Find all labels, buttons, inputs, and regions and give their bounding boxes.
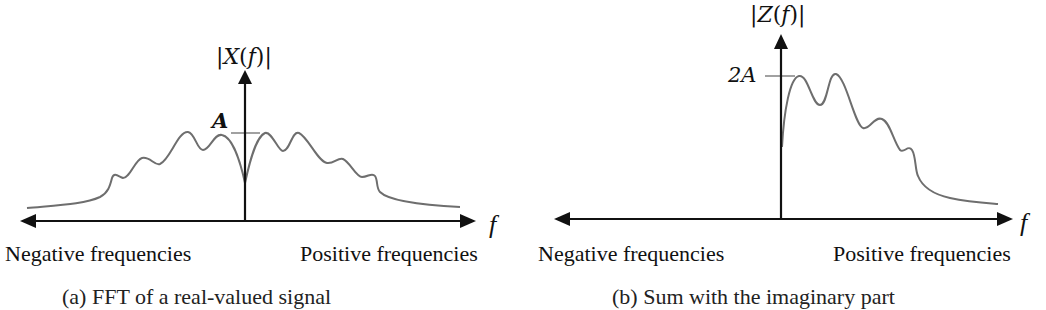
x-axis-label: f	[1020, 208, 1027, 238]
spectrum-curve-x	[27, 132, 460, 208]
panel-a-two-sided-spectrum: |X(f)| A f Negative frequencies Positive…	[0, 0, 520, 299]
x-axis-left-arrow-icon	[554, 212, 570, 226]
y-axis-arrow-icon	[774, 34, 788, 49]
x-axis-label: f	[489, 210, 496, 240]
negative-frequencies-label: Negative frequencies	[538, 241, 724, 267]
positive-frequencies-label: Positive frequencies	[833, 241, 1011, 267]
panel-b-one-sided-spectrum: |Z(f)| 2A f Negative frequencies Positiv…	[520, 0, 1046, 299]
y-axis-label: |X(f)|	[216, 44, 272, 69]
positive-frequencies-label: Positive frequencies	[300, 241, 478, 267]
caption-b: (b) Sum with the imaginary part	[612, 284, 895, 310]
spectrum-curve-z	[782, 74, 998, 204]
y-axis-arrow-icon	[238, 70, 252, 84]
x-axis-left-arrow-icon	[20, 214, 36, 228]
level-label-2a: 2A	[728, 63, 757, 87]
x-axis-right-arrow-icon	[997, 212, 1013, 226]
y-axis-label: |Z(f)|	[750, 2, 805, 27]
x-axis-right-arrow-icon	[460, 214, 476, 228]
level-label-a: A	[212, 108, 228, 133]
negative-frequencies-label: Negative frequencies	[5, 241, 191, 267]
caption-a: (a) FFT of a real-valued signal	[62, 284, 331, 310]
